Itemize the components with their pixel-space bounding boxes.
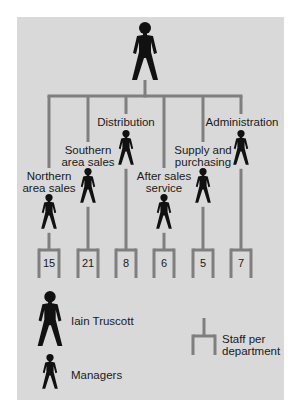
staff-count-after-sales: 6 xyxy=(154,257,174,269)
manager-person-icon xyxy=(118,130,134,165)
dept-label-supply-and-purchasing: Supply and purchasing xyxy=(172,144,234,168)
manager-person-icon xyxy=(156,194,172,229)
dept-label-distribution: Distribution xyxy=(96,116,156,128)
label-line: area sales xyxy=(58,156,118,168)
label-line: purchasing xyxy=(172,156,234,168)
label-line: Southern xyxy=(58,144,118,156)
label-line: Supply and xyxy=(172,144,234,156)
label-line: department xyxy=(222,345,280,357)
dept-label-after-sales-service: After sales service xyxy=(130,170,198,194)
dept-label-administration: Administration xyxy=(204,116,280,128)
manager-person-icon xyxy=(41,194,57,229)
dept-label-southern-area-sales: Southern area sales xyxy=(58,144,118,168)
label-line: Staff per xyxy=(222,333,280,345)
label-line: Administration xyxy=(204,116,280,128)
staff-count-southern: 21 xyxy=(78,257,98,269)
legend-staff-label: Staff per department xyxy=(222,333,280,357)
legend-head-person-icon xyxy=(38,291,63,346)
legend-managers-label: Managers xyxy=(71,369,122,381)
staff-count-supply: 5 xyxy=(193,257,213,269)
manager-person-icon xyxy=(233,130,249,165)
label-line: service xyxy=(130,182,198,194)
head-person-icon xyxy=(132,22,158,80)
staff-count-northern: 15 xyxy=(39,257,59,269)
label-line: After sales xyxy=(130,170,198,182)
dept-label-northern-area-sales: Northern area sales xyxy=(14,170,84,194)
label-line: Distribution xyxy=(96,116,156,128)
staff-count-administration: 7 xyxy=(231,257,251,269)
legend-manager-person-icon xyxy=(42,354,58,389)
label-line: area sales xyxy=(14,182,84,194)
staff-count-distribution: 8 xyxy=(116,257,136,269)
legend-head-label: Iain Truscott xyxy=(71,315,134,327)
label-line: Northern xyxy=(14,170,84,182)
